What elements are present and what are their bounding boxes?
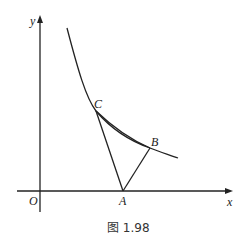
x-axis-arrow-icon	[225, 188, 233, 194]
y-axis-arrow-icon	[37, 15, 43, 23]
segment-CB	[96, 111, 150, 148]
origin-label: O	[29, 195, 38, 207]
point-A-label: A	[119, 195, 126, 207]
figure-caption: 图 1.98	[107, 222, 150, 234]
segment-BA	[123, 148, 150, 191]
y-axis-label: y	[30, 15, 35, 27]
curve	[67, 28, 178, 158]
point-C-label: C	[94, 98, 102, 110]
point-B-label: B	[151, 136, 158, 148]
x-axis-label: x	[227, 196, 232, 208]
